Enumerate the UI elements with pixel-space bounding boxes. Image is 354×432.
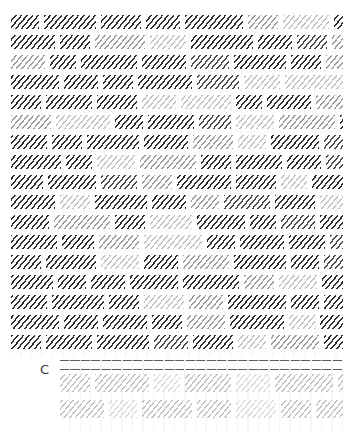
- document-page: C: [0, 0, 354, 432]
- obscured-word: [11, 75, 59, 89]
- obscured-word: [81, 55, 137, 69]
- obscured-word: [324, 135, 343, 149]
- obscured-word: [316, 95, 343, 109]
- obscured-word: [193, 135, 233, 149]
- obscured-word: [320, 215, 343, 229]
- obscured-word: [324, 255, 343, 269]
- obscured-word: [152, 315, 182, 329]
- obscured-word: [287, 155, 321, 169]
- obscured-word: [91, 275, 125, 289]
- obscured-word: [138, 75, 192, 89]
- obscured-word: [177, 175, 231, 189]
- obscured-word: [289, 315, 315, 329]
- obscured-word: [183, 255, 229, 269]
- table-rule-bottom: [60, 369, 343, 370]
- text-line: [11, 335, 343, 349]
- obscured-word: [197, 400, 231, 418]
- obscured-word: [50, 55, 76, 69]
- obscured-word: [234, 255, 286, 269]
- obscured-word: [185, 374, 231, 392]
- obscured-word: [152, 195, 186, 209]
- obscured-word: [11, 195, 55, 209]
- obscured-word: [146, 15, 180, 29]
- text-line: [11, 295, 343, 309]
- obscured-word: [109, 400, 137, 418]
- obscured-word: [324, 295, 343, 309]
- obscured-word: [322, 275, 343, 289]
- obscured-word: [248, 15, 278, 29]
- obscured-word: [46, 95, 92, 109]
- obscured-word: [281, 400, 311, 418]
- text-line: [11, 255, 343, 269]
- obscured-word: [46, 335, 92, 349]
- obscured-word: [60, 195, 90, 209]
- obscured-word: [99, 235, 139, 249]
- text-line: [11, 15, 343, 29]
- obscured-word: [338, 374, 343, 392]
- obscured-word: [154, 374, 180, 392]
- obscured-word: [236, 175, 276, 189]
- obscured-word: [326, 55, 343, 69]
- obscured-word: [340, 115, 343, 129]
- obscured-word: [191, 55, 229, 69]
- obscured-word: [58, 275, 86, 289]
- obscured-word: [238, 135, 266, 149]
- obscured-word: [297, 35, 327, 49]
- obscured-word: [48, 175, 96, 189]
- obscured-word: [193, 335, 233, 349]
- obscured-word: [97, 95, 137, 109]
- obscured-word: [142, 95, 176, 109]
- obscured-word: [324, 335, 343, 349]
- obscured-word: [44, 15, 96, 29]
- obscured-word: [250, 215, 276, 229]
- obscured-word: [271, 135, 319, 149]
- text-line: [11, 95, 343, 109]
- text-line: [11, 235, 343, 249]
- obscured-word: [11, 175, 43, 189]
- obscured-word: [95, 35, 145, 49]
- obscured-word: [130, 275, 178, 289]
- obscured-word: [60, 374, 90, 392]
- obscured-word: [52, 135, 82, 149]
- obscured-word: [103, 75, 133, 89]
- obscured-word: [56, 115, 110, 129]
- obscured-word: [150, 35, 186, 49]
- obscured-word: [316, 400, 343, 418]
- obscured-word: [150, 215, 192, 229]
- obscured-word: [330, 235, 343, 249]
- obscured-word: [187, 315, 225, 329]
- obscured-word: [144, 255, 178, 269]
- text-line: [11, 35, 343, 49]
- obscured-word: [142, 175, 172, 189]
- obscured-word: [109, 295, 139, 309]
- text-line: [11, 135, 343, 149]
- text-line: [11, 315, 343, 329]
- obscured-word: [236, 374, 270, 392]
- obscured-word: [224, 195, 270, 209]
- obscured-word: [11, 115, 51, 129]
- obscured-word: [197, 215, 245, 229]
- obscured-word: [236, 400, 276, 418]
- obscured-word: [326, 155, 343, 169]
- obscured-word: [11, 135, 47, 149]
- obscured-word: [11, 15, 39, 29]
- obscured-word: [64, 75, 98, 89]
- obscured-word: [11, 295, 47, 309]
- obscured-word: [144, 235, 202, 249]
- obscured-word: [154, 335, 188, 349]
- obscured-word: [275, 374, 333, 392]
- obscured-word: [234, 55, 286, 69]
- obscured-word: [199, 115, 231, 129]
- obscured-word: [281, 215, 315, 229]
- obscured-word: [64, 315, 98, 329]
- obscured-word: [228, 295, 286, 309]
- obscured-word: [144, 135, 188, 149]
- obscured-word: [101, 255, 139, 269]
- obscured-word: [11, 335, 41, 349]
- obscured-word: [11, 215, 49, 229]
- obscured-word: [283, 15, 329, 29]
- text-line: [11, 275, 343, 289]
- text-line: [11, 155, 343, 169]
- obscured-word: [148, 115, 194, 129]
- obscured-word: [46, 255, 96, 269]
